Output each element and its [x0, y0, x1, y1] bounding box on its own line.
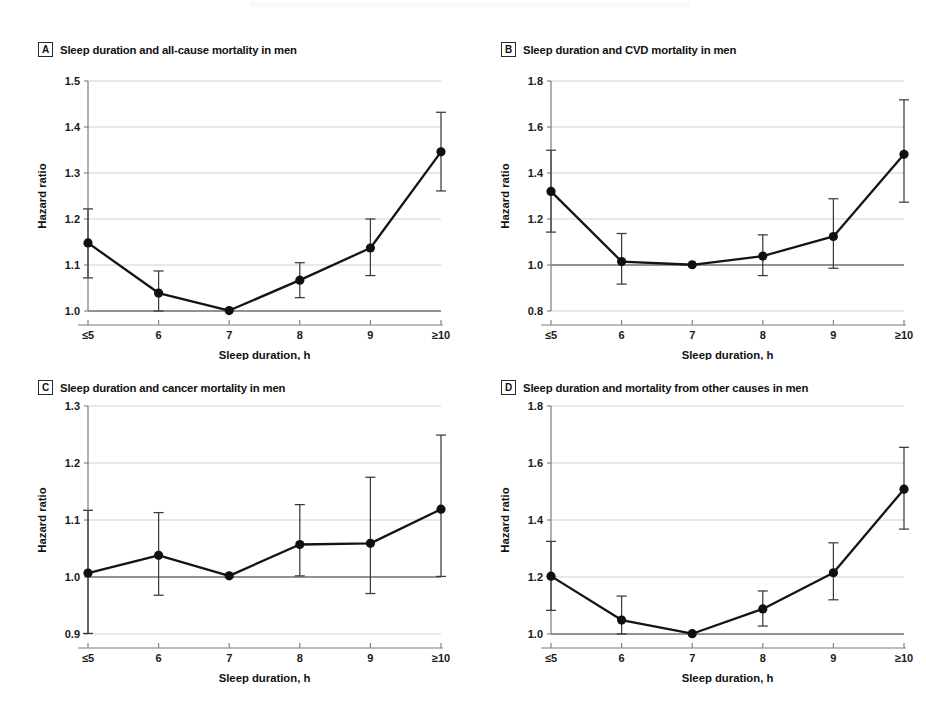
x-tick-label: ≥10 — [895, 329, 913, 341]
data-point-markers — [83, 147, 445, 315]
x-tick-label: ≤5 — [545, 652, 557, 664]
data-point — [829, 232, 838, 241]
panel-b-plot: 0.81.01.21.41.61.8≤56789≥10Sleep duratio… — [463, 0, 926, 360]
x-tick-label: 8 — [297, 329, 303, 341]
data-point-markers — [83, 505, 445, 581]
data-point — [295, 540, 304, 549]
y-tick-label: 1.3 — [65, 400, 80, 412]
error-bars — [83, 112, 446, 311]
data-point — [225, 306, 234, 315]
data-point — [366, 539, 375, 548]
y-tick-label: 1.0 — [528, 259, 543, 271]
data-point — [436, 505, 445, 514]
x-axis-title: Sleep duration, h — [219, 672, 311, 684]
y-tick-label: 1.5 — [65, 75, 80, 87]
y-gridlines: 0.91.01.11.21.3 — [65, 400, 441, 640]
data-point — [688, 629, 697, 638]
x-tick-label: 8 — [297, 652, 303, 664]
y-gridlines: 0.81.01.21.41.61.8 — [528, 75, 904, 317]
panel-c-plot: 0.91.01.11.21.3≤56789≥10Sleep duration, … — [0, 360, 463, 721]
x-tick-group: ≤56789≥10 — [545, 643, 913, 664]
x-tick-label: ≤5 — [82, 652, 94, 664]
x-tick-label: 7 — [689, 652, 695, 664]
x-tick-label: ≥10 — [432, 652, 450, 664]
x-tick-group: ≤56789≥10 — [545, 320, 913, 341]
x-tick-label: ≥10 — [895, 652, 913, 664]
panel-b: B Sleep duration and CVD mortality in me… — [463, 0, 926, 360]
panel-a-plot: 1.01.11.21.31.41.5≤56789≥10Sleep duratio… — [0, 0, 463, 360]
x-tick-group: ≤56789≥10 — [82, 643, 450, 664]
x-tick-label: 6 — [156, 652, 162, 664]
panel-c: C Sleep duration and cancer mortality in… — [0, 360, 463, 721]
hazard-ratio-line — [551, 154, 904, 264]
y-tick-label: 1.6 — [528, 121, 543, 133]
data-point — [899, 485, 908, 494]
x-tick-group: ≤56789≥10 — [82, 320, 450, 341]
y-tick-label: 1.0 — [528, 628, 543, 640]
hazard-ratio-line — [551, 489, 904, 633]
hazard-ratio-line — [88, 152, 441, 311]
y-gridlines: 1.01.21.41.61.8 — [528, 400, 904, 640]
data-point — [366, 243, 375, 252]
x-tick-label: 6 — [156, 329, 162, 341]
y-tick-label: 1.8 — [528, 400, 543, 412]
data-point — [154, 551, 163, 560]
x-axis-title: Sleep duration, h — [682, 349, 774, 360]
y-tick-label: 1.2 — [65, 213, 80, 225]
y-axis-title: Hazard ratio — [36, 487, 48, 552]
x-tick-label: ≤5 — [545, 329, 557, 341]
y-tick-label: 1.2 — [65, 457, 80, 469]
y-tick-label: 1.0 — [65, 571, 80, 583]
y-tick-label: 1.4 — [65, 121, 81, 133]
data-point — [829, 568, 838, 577]
y-axis-title: Hazard ratio — [499, 163, 511, 228]
y-tick-label: 1.4 — [528, 514, 544, 526]
data-point — [546, 187, 555, 196]
data-point — [758, 251, 767, 260]
data-point — [225, 571, 234, 580]
y-axis-title: Hazard ratio — [36, 163, 48, 228]
data-point — [546, 572, 555, 581]
y-tick-label: 1.1 — [65, 514, 80, 526]
data-point — [617, 257, 626, 266]
chart-svg-panel-a: 1.01.11.21.31.41.5≤56789≥10Sleep duratio… — [0, 0, 463, 360]
data-point — [295, 276, 304, 285]
y-tick-label: 1.0 — [65, 305, 80, 317]
data-point — [436, 147, 445, 156]
x-tick-label: 9 — [367, 329, 373, 341]
y-tick-label: 1.2 — [528, 571, 543, 583]
data-point — [83, 568, 92, 577]
y-tick-label: 0.9 — [65, 628, 80, 640]
data-point — [758, 604, 767, 613]
error-bars — [546, 100, 909, 284]
x-tick-label: ≤5 — [82, 329, 94, 341]
x-axis-title: Sleep duration, h — [682, 672, 774, 684]
data-point-markers — [546, 150, 908, 270]
panel-a: A Sleep duration and all-cause mortality… — [0, 0, 463, 360]
y-tick-label: 1.3 — [65, 167, 80, 179]
chart-svg-panel-c: 0.91.01.11.21.3≤56789≥10Sleep duration, … — [0, 360, 463, 721]
y-gridlines: 1.01.11.21.31.41.5 — [65, 75, 441, 317]
y-tick-label: 1.1 — [65, 259, 80, 271]
panel-d: D Sleep duration and mortality from othe… — [463, 360, 926, 721]
y-axis-title: Hazard ratio — [499, 487, 511, 552]
x-tick-label: 7 — [226, 652, 232, 664]
x-tick-label: 8 — [760, 652, 766, 664]
y-tick-label: 1.6 — [528, 457, 543, 469]
data-point — [688, 260, 697, 269]
x-tick-label: 8 — [760, 329, 766, 341]
x-axis-title: Sleep duration, h — [219, 349, 311, 360]
data-point — [617, 615, 626, 624]
data-point — [899, 150, 908, 159]
x-tick-label: 9 — [367, 652, 373, 664]
x-tick-label: 6 — [619, 329, 625, 341]
x-tick-label: 7 — [689, 329, 695, 341]
y-tick-label: 1.8 — [528, 75, 543, 87]
x-tick-label: 9 — [830, 329, 836, 341]
y-tick-label: 0.8 — [528, 305, 543, 317]
data-point — [83, 238, 92, 247]
y-tick-label: 1.4 — [528, 167, 544, 179]
y-tick-label: 1.2 — [528, 213, 543, 225]
figure-panel-grid: A Sleep duration and all-cause mortality… — [0, 0, 926, 721]
data-point — [154, 288, 163, 297]
